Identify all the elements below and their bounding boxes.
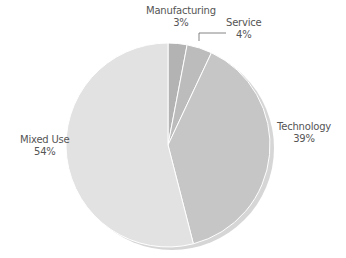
label-service: Service 4% bbox=[226, 17, 262, 41]
label-service-name: Service bbox=[226, 17, 262, 29]
pie-slices bbox=[66, 43, 270, 247]
label-service-pct: 4% bbox=[226, 29, 262, 41]
label-mixed-use: Mixed Use 54% bbox=[20, 134, 70, 158]
label-manufacturing-pct: 3% bbox=[146, 17, 216, 29]
label-mixed-use-name: Mixed Use bbox=[20, 134, 70, 146]
label-technology: Technology 39% bbox=[277, 121, 331, 145]
label-technology-pct: 39% bbox=[277, 133, 331, 145]
label-manufacturing: Manufacturing 3% bbox=[146, 5, 216, 29]
service-leader-line bbox=[199, 33, 226, 41]
label-manufacturing-name: Manufacturing bbox=[146, 5, 216, 17]
label-mixed-use-pct: 54% bbox=[20, 146, 70, 158]
label-technology-name: Technology bbox=[277, 121, 331, 133]
